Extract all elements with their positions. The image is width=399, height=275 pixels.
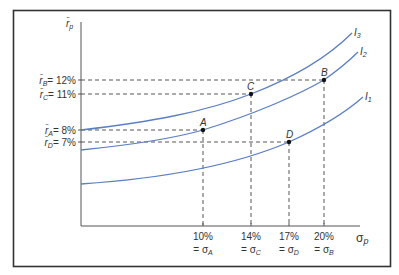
curve-label-I1: I1 (365, 91, 372, 103)
point-label-D: D (286, 129, 293, 140)
point-B (322, 78, 326, 82)
y-tick-label-rC: r̄C= 11% (40, 88, 76, 101)
y-axis-label: r̄p (66, 17, 73, 31)
y-tick-label-rA: r̄A= 8% (45, 124, 76, 137)
chart-figure: A B C D I3 I2 I1 r̄p σp r̄B= 12% r̄C= 11… (0, 0, 399, 275)
point-C (249, 92, 253, 96)
x-tick-eq-A: = σA (193, 244, 213, 256)
indifference-curves (81, 33, 363, 184)
curve-I2 (81, 52, 358, 150)
y-tick-label-rB: r̄B= 12% (39, 74, 76, 87)
y-tick-label-rD: r̄D= 7% (45, 136, 77, 149)
point-label-B: B (321, 67, 328, 78)
point-D (287, 140, 291, 144)
tick-marks (78, 80, 324, 226)
curve-I1 (81, 97, 363, 184)
x-tick-eq-C: = σC (241, 244, 262, 256)
x-tick-eq-D: = σD (279, 244, 299, 256)
x-axis-label: σp (356, 231, 368, 246)
x-tick-eq-B: = σB (314, 244, 334, 256)
curve-I3 (81, 33, 352, 130)
curve-label-I2: I2 (360, 46, 367, 58)
x-tick-value-B: 20% (314, 231, 334, 242)
point-label-A: A (199, 117, 207, 128)
point-label-C: C (247, 81, 255, 92)
curve-label-I3: I3 (354, 27, 361, 39)
x-tick-labels: 10% = σA 14% = σC 17% = σD 20% = σB (193, 231, 334, 256)
dashed-guides (81, 80, 324, 226)
data-points (201, 78, 326, 144)
x-tick-value-C: 14% (241, 231, 261, 242)
x-tick-value-D: 17% (279, 231, 299, 242)
point-A (201, 128, 205, 132)
x-tick-value-A: 10% (193, 231, 213, 242)
